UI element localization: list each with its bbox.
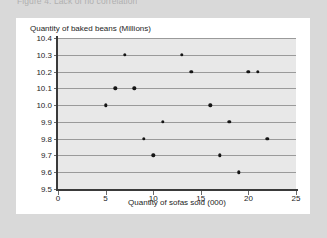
gridline <box>58 105 296 106</box>
scatter-plot: 9.59.69.79.89.910.010.110.210.310.4 0510… <box>58 38 296 189</box>
x-axis-line <box>56 189 298 191</box>
gridline <box>58 155 296 156</box>
y-axis-tick-label: 9.6 <box>41 168 52 177</box>
y-axis-title: Quantity of baked beans (Millions) <box>30 24 151 33</box>
y-axis-tick-label: 9.8 <box>41 134 52 143</box>
y-axis-line <box>56 36 58 191</box>
gridline <box>58 88 296 89</box>
gridline <box>58 55 296 56</box>
plot-area <box>58 38 296 189</box>
y-axis-tick-label: 9.7 <box>41 151 52 160</box>
y-axis-tick-label: 9.9 <box>41 117 52 126</box>
y-axis-tick-label: 10.1 <box>36 84 52 93</box>
gridline <box>58 139 296 140</box>
gridline <box>58 122 296 123</box>
gridline <box>58 72 296 73</box>
y-axis-tick-label: 10.3 <box>36 50 52 59</box>
chart-card: Quantity of baked beans (Millions) 9.59.… <box>16 18 310 214</box>
y-axis-tick-label: 10.0 <box>36 101 52 110</box>
y-axis-tick-label: 10.2 <box>36 67 52 76</box>
x-axis-title: Quantity of sofas sold (000) <box>58 198 296 207</box>
gridline <box>58 38 296 39</box>
figure-caption: Figure 4: Lack of no correlation <box>17 0 137 7</box>
y-axis-tick-label: 10.4 <box>36 34 52 43</box>
gridline <box>58 172 296 173</box>
y-axis-tick-label: 9.5 <box>41 185 52 194</box>
